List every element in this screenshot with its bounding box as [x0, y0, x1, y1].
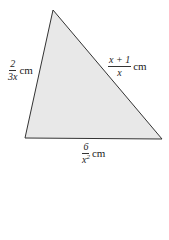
bottom-side-denominator-exponent: 2 [86, 153, 90, 161]
left-side-numerator: 2 [9, 59, 16, 71]
left-side-denominator: 3x [8, 71, 17, 82]
bottom-side-fraction: 6 x2 [82, 142, 90, 165]
left-side-unit: cm [19, 64, 32, 76]
bottom-side-label: 6 x2 cm [82, 142, 105, 165]
right-side-label: x + 1 x cm [108, 55, 147, 78]
right-side-unit: cm [133, 60, 146, 72]
right-side-fraction: x + 1 x [108, 55, 131, 78]
right-side-denominator: x [117, 67, 121, 78]
bottom-side-denominator: x2 [82, 154, 90, 165]
left-side-label: 2 3x cm [8, 59, 33, 82]
left-side-fraction: 2 3x [8, 59, 17, 82]
bottom-side-unit: cm [92, 147, 105, 159]
right-side-numerator: x + 1 [108, 55, 131, 67]
